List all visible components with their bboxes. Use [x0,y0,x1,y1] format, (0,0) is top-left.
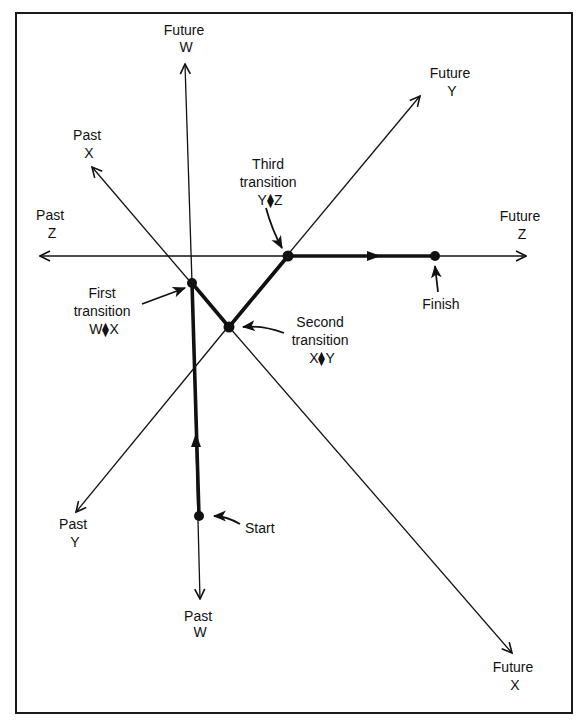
label-future-z: Future Z [500,208,544,242]
axis-x [92,167,512,653]
first-callout-arrow [142,288,185,304]
label-future-w: Future W [164,22,208,55]
label-past-z: Past Z [36,207,68,241]
finish-point [430,251,440,261]
label-finish: Finish [422,296,459,312]
finish-callout-arrow [435,266,438,292]
first-transition-point [187,278,197,288]
start-callout-arrow [214,516,240,524]
label-first-transition: First transition W⧫X [74,285,135,338]
second-transition-point [224,322,235,333]
label-future-x: Future X [493,659,537,693]
direction-arrow-up [191,433,201,447]
trajectory-path [191,251,435,516]
label-second-transition: Second transition X⧫Y [292,314,353,367]
direction-arrow-right [367,251,381,261]
start-point [194,511,204,521]
label-past-w: Past W [184,608,216,640]
label-start: Start [245,520,275,536]
third-transition-point [283,251,294,262]
third-callout-arrow [266,208,282,248]
label-past-y: Past Y [59,516,91,550]
transition-diagram: Future W Past W Past X Future X Future Y… [0,0,588,724]
label-future-y: Future Y [430,65,474,99]
second-callout-arrow [243,327,284,333]
label-third-transition: Third transition Y⧫Z [240,156,301,209]
label-past-x: Past X [73,127,105,161]
